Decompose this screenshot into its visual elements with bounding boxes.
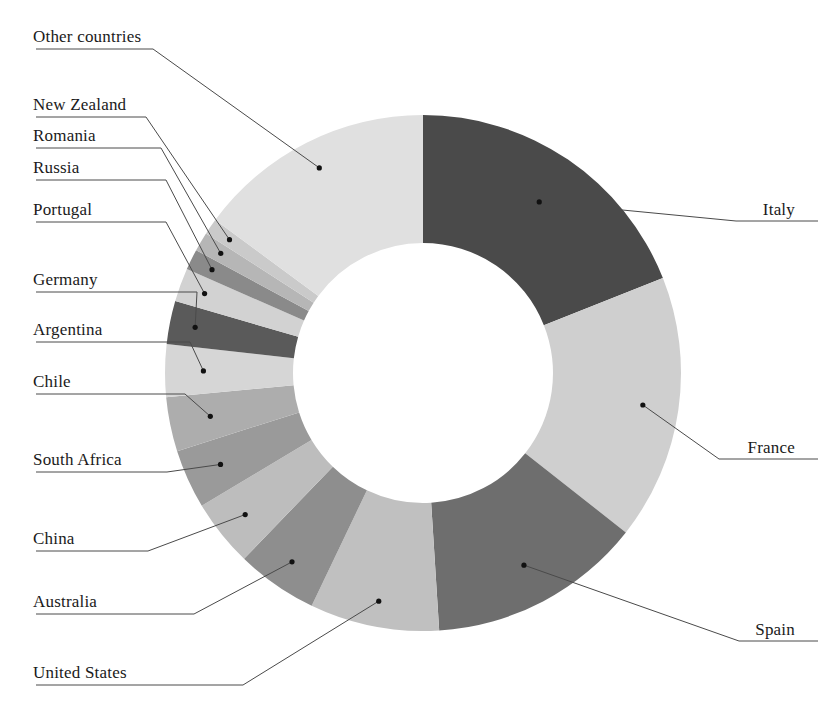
slice-label-australia: Australia	[33, 592, 97, 612]
leader-dot-united-states	[376, 599, 381, 604]
slice-label-argentina: Argentina	[33, 320, 102, 340]
leader-dot-italy	[537, 199, 542, 204]
leader-line-russia	[36, 180, 212, 270]
slice-label-new-zealand: New Zealand	[33, 95, 126, 115]
leader-dot-australia	[289, 559, 294, 564]
leader-dot-china	[243, 512, 248, 517]
slice-label-china: China	[33, 529, 75, 549]
leader-dot-spain	[521, 563, 526, 568]
slice-label-other-countries: Other countries	[33, 27, 141, 47]
slice-label-united-states: United States	[33, 663, 127, 683]
slice-label-france: France	[660, 438, 795, 458]
leader-dot-chile	[208, 414, 213, 419]
leader-dot-portugal	[202, 291, 207, 296]
leader-dot-germany	[193, 325, 198, 330]
leader-dot-new-zealand	[227, 237, 232, 242]
leader-dot-france	[640, 402, 645, 407]
donut-slices	[165, 115, 681, 631]
slice-label-chile: Chile	[33, 372, 71, 392]
slice-label-russia: Russia	[33, 158, 80, 178]
leader-dot-russia	[209, 267, 214, 272]
slice-label-italy: Italy	[660, 200, 795, 220]
leader-dot-south-africa	[218, 462, 223, 467]
leader-dot-other-countries	[317, 165, 322, 170]
leader-dot-romania	[218, 251, 223, 256]
slice-label-romania: Romania	[33, 126, 96, 146]
leader-dot-argentina	[201, 368, 206, 373]
slice-label-germany: Germany	[33, 270, 98, 290]
slice-label-spain: Spain	[660, 620, 795, 640]
slice-label-south-africa: South Africa	[33, 450, 122, 470]
slice-label-portugal: Portugal	[33, 200, 92, 220]
chart-page: Italy France Spain Other countries New Z…	[0, 0, 828, 722]
